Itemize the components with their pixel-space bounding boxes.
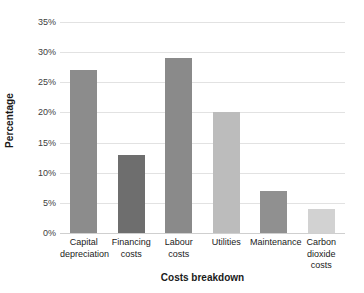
- x-axis-category-label: Utilities: [203, 237, 251, 249]
- bar[interactable]: [213, 112, 240, 233]
- x-axis-category-label: Financing costs: [108, 237, 156, 260]
- y-axis-tick-label: 30%: [20, 47, 56, 57]
- bar[interactable]: [70, 70, 97, 233]
- x-axis-title: Costs breakdown: [60, 272, 345, 283]
- x-axis-baseline: [60, 233, 345, 234]
- y-axis-tick-label: 0%: [20, 228, 56, 238]
- y-axis-title: Percentage: [0, 0, 18, 240]
- x-axis-category-label: Carbon dioxide costs: [298, 237, 346, 272]
- bars-layer: [60, 22, 345, 233]
- bar[interactable]: [260, 191, 287, 233]
- y-axis-tick-label: 15%: [20, 138, 56, 148]
- bar[interactable]: [165, 58, 192, 233]
- y-axis-tick-label: 20%: [20, 107, 56, 117]
- bar[interactable]: [308, 209, 335, 233]
- x-axis-category-label: Labour costs: [155, 237, 203, 260]
- bar-chart: Percentage 0%5%10%15%20%25%30%35% Capita…: [0, 0, 364, 293]
- bar[interactable]: [118, 155, 145, 233]
- y-axis-tick-labels: 0%5%10%15%20%25%30%35%: [20, 0, 56, 293]
- y-axis-tick-label: 5%: [20, 198, 56, 208]
- x-axis-category-labels: Capital depreciationFinancing costsLabou…: [60, 237, 345, 271]
- y-axis-title-text: Percentage: [4, 93, 15, 148]
- y-axis-tick-label: 35%: [20, 17, 56, 27]
- y-axis-tick-label: 25%: [20, 77, 56, 87]
- x-axis-category-label: Maintenance: [250, 237, 298, 249]
- x-axis-category-label: Capital depreciation: [60, 237, 108, 260]
- y-axis-tick-label: 10%: [20, 168, 56, 178]
